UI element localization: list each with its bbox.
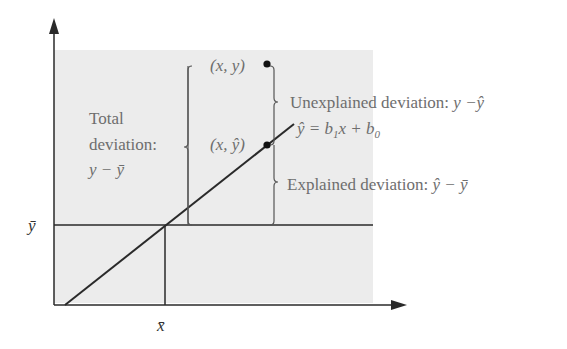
total-deviation-line2: deviation: xyxy=(89,135,157,154)
x-axis-arrow-icon xyxy=(391,300,407,310)
ybar-label: ȳ xyxy=(26,216,36,235)
regression-equation: ŷ = b1x + b0 xyxy=(295,119,381,140)
observed-point-label: (x, y) xyxy=(210,56,245,75)
predicted-point-label: (x, ŷ) xyxy=(210,135,245,154)
predicted-point xyxy=(263,141,270,148)
regression-deviation-diagram: (x, y) (x, ŷ) Total deviation: y − ȳ Une… xyxy=(0,0,567,349)
total-deviation-expr: y − ȳ xyxy=(87,160,125,179)
unexplained-deviation-label: Unexplained deviation: y −ŷ xyxy=(290,93,485,112)
explained-deviation-label: Explained deviation: ŷ − ȳ xyxy=(287,175,468,194)
xbar-label: x̄ xyxy=(156,316,165,335)
observed-point xyxy=(263,60,270,67)
total-deviation-line1: Total xyxy=(89,109,124,128)
y-axis-arrow-icon xyxy=(49,18,59,34)
